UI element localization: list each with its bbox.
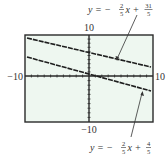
graphing-calculator-figure: 10 −10 10 −10 y = − 2 5 x + 31 5 y = − 2… (0, 0, 167, 159)
x-max-label: 10 (155, 71, 165, 82)
x-min-label: −10 (7, 71, 23, 82)
eq-coef-den: 5 (120, 10, 123, 17)
eq-var: x + (127, 142, 142, 153)
equation-upper: y = − 2 5 x + 31 5 (87, 2, 153, 17)
eq-const-num: 31 (145, 2, 152, 9)
equation-lower: y = − 2 5 x + 4 5 (89, 140, 151, 155)
eq-var: x + (125, 4, 140, 15)
y-min-label: −10 (81, 124, 97, 135)
eq-const-den: 5 (147, 10, 150, 17)
eq-coef-num: 2 (122, 140, 125, 147)
eq-const-num: 4 (147, 140, 151, 147)
eq-const-den: 5 (147, 148, 150, 155)
chart-svg: 10 −10 10 −10 y = − 2 5 x + 31 5 y = − 2… (0, 0, 167, 159)
y-max-label: 10 (84, 22, 94, 33)
eq-prefix: y = − (89, 142, 113, 153)
eq-coef-num: 2 (120, 2, 123, 9)
eq-prefix: y = − (87, 4, 111, 15)
eq-coef-den: 5 (122, 148, 125, 155)
